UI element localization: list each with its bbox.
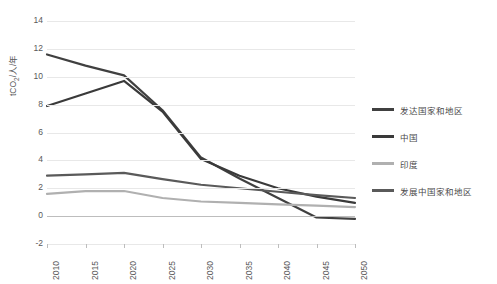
- y-axis-tick-label: 6: [3, 128, 43, 137]
- y-axis-tick-label: 14: [3, 16, 43, 25]
- y-axis-tick-label: 10: [3, 72, 43, 81]
- legend-item[interactable]: 中国: [372, 123, 497, 150]
- y-axis-tick-label: 12: [3, 44, 43, 53]
- gridline: [47, 77, 355, 78]
- legend-item-label: 发达国家和地区: [400, 104, 463, 116]
- y-axis-tick-label: 2: [3, 183, 43, 192]
- gridline: [47, 105, 355, 106]
- y-axis-tick-label: 4: [3, 155, 43, 164]
- y-axis-tick-label: 8: [3, 100, 43, 109]
- x-axis-tick-mark: [201, 244, 202, 248]
- axis-baseline: [47, 216, 355, 217]
- x-axis-tick-mark: [47, 244, 48, 248]
- chart-figure: tCO2/人/年 14121086420-2 20102015202020252…: [0, 0, 497, 284]
- legend-item[interactable]: 发达国家和地区: [372, 96, 497, 123]
- chart-legend: 发达国家和地区中国印度发展中国家和地区: [372, 96, 497, 204]
- gridline: [47, 160, 355, 161]
- legend-swatch-icon: [372, 108, 394, 111]
- x-axis-tick-mark: [163, 244, 164, 248]
- figure-caption: [0, 276, 497, 284]
- gridline: [47, 21, 355, 22]
- legend-item-label: 发展中国家和地区: [400, 185, 472, 197]
- x-axis-tick-mark: [355, 244, 356, 248]
- gridline: [47, 188, 355, 189]
- legend-item[interactable]: 印度: [372, 150, 497, 177]
- legend-item[interactable]: 发展中国家和地区: [372, 177, 497, 204]
- x-axis-tick-mark: [124, 244, 125, 248]
- x-axis-tick-mark: [278, 244, 279, 248]
- y-axis-tick-label: 0: [3, 211, 43, 220]
- y-axis-tick-label: -2: [3, 239, 43, 248]
- series-line: [47, 173, 355, 198]
- legend-item-label: 中国: [400, 131, 418, 143]
- gridline: [47, 49, 355, 50]
- x-axis-tick-mark: [86, 244, 87, 248]
- plot-area: [47, 21, 355, 244]
- gridline: [47, 133, 355, 134]
- legend-swatch-icon: [372, 162, 394, 165]
- x-axis-tick-mark: [317, 244, 318, 248]
- x-axis-tick-mark: [240, 244, 241, 248]
- y-axis-tick-labels: 14121086420-2: [0, 21, 43, 244]
- legend-swatch-icon: [372, 135, 394, 138]
- legend-swatch-icon: [372, 189, 394, 192]
- legend-item-label: 印度: [400, 158, 418, 170]
